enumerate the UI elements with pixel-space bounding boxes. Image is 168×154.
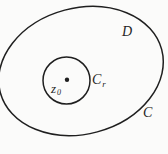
- center-point-dot: [65, 78, 69, 82]
- label-domain-d: D: [122, 25, 132, 39]
- label-outer-curve-c: C: [143, 106, 152, 120]
- diagram-svg: [0, 0, 168, 154]
- figure-canvas: D C Cr z0: [0, 0, 168, 154]
- label-center-z0: z0: [51, 82, 60, 95]
- label-inner-curve-base: C: [92, 72, 101, 87]
- label-center-subscript: 0: [57, 88, 61, 97]
- label-inner-curve-cr: Cr: [92, 73, 105, 87]
- label-center-base: z: [51, 81, 56, 96]
- domain-boundary-ellipse: [0, 0, 168, 153]
- label-inner-curve-subscript: r: [102, 79, 106, 89]
